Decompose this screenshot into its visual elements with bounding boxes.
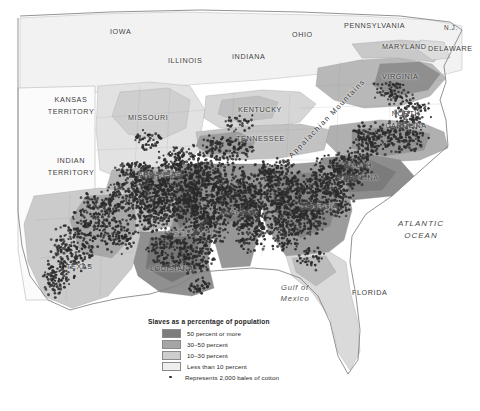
legend-swatch-10-30 bbox=[162, 351, 181, 360]
legend-swatch-50-or-more bbox=[162, 329, 181, 338]
legend-row-10-30: 10–30 percent bbox=[148, 350, 338, 360]
legend-label-less-than-10: Less than 10 percent bbox=[187, 363, 247, 370]
legend-label-cotton-dot: Represents 2,000 bales of cotton bbox=[185, 374, 279, 381]
legend-title: Slaves as a percentage of population bbox=[148, 318, 338, 325]
historical-map-figure: IOWA ILLINOIS INDIANA OHIO PENNSYLVANIA … bbox=[0, 0, 480, 411]
legend-row-30-50: 30–50 percent bbox=[148, 339, 338, 349]
legend-row-50-or-more: 50 percent or more bbox=[148, 328, 338, 338]
legend-row-cotton-dot: Represents 2,000 bales of cotton bbox=[148, 372, 338, 382]
legend-swatch-less-than-10 bbox=[162, 362, 181, 371]
legend-label-50-or-more: 50 percent or more bbox=[187, 330, 241, 337]
legend-label-10-30: 10–30 percent bbox=[187, 352, 228, 359]
map-legend: Slaves as a percentage of population 50 … bbox=[148, 318, 338, 383]
legend-label-30-50: 30–50 percent bbox=[187, 341, 228, 348]
cotton-dot-icon bbox=[162, 376, 179, 379]
legend-row-less-than-10: Less than 10 percent bbox=[148, 361, 338, 371]
legend-swatch-30-50 bbox=[162, 340, 181, 349]
